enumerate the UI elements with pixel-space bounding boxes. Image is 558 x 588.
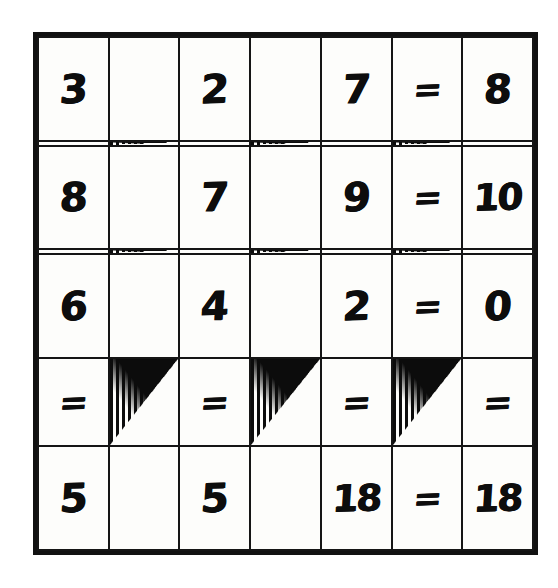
- cell-value: 7: [179, 176, 250, 218]
- cell-value: 3: [38, 68, 109, 110]
- cell-value: [180, 142, 249, 144]
- cell-value: 8: [462, 68, 533, 110]
- cell-r6c4[interactable]: [250, 358, 321, 447]
- cell-r7c1[interactable]: 5: [38, 446, 109, 550]
- cell-r6c6[interactable]: [392, 358, 463, 447]
- hatched-triangle-icon: [393, 359, 462, 446]
- cell-value: [110, 196, 179, 198]
- cell-r3c2[interactable]: [109, 146, 180, 250]
- cell-value: 2: [321, 285, 392, 327]
- cell-r7c2[interactable]: [109, 446, 180, 550]
- cell-r3c1[interactable]: 8: [38, 146, 109, 250]
- cell-value: =: [392, 480, 463, 516]
- cell-r5c2[interactable]: [109, 254, 180, 358]
- cell-value: 5: [38, 477, 109, 519]
- cell-r3c4[interactable]: [250, 146, 321, 250]
- table-row: 6 4 2 = 0: [38, 254, 533, 358]
- puzzle-grid: 3 2 7 = 8 8: [33, 32, 538, 555]
- cell-value: =: [392, 288, 463, 324]
- page-root: 3 2 7 = 8 8: [0, 0, 558, 588]
- cell-value: =: [462, 384, 533, 420]
- table-row: 3 2 7 = 8: [38, 37, 533, 141]
- cell-value: [463, 251, 532, 253]
- hatched-triangle-icon: [251, 142, 320, 145]
- cell-r7c7[interactable]: 18: [462, 446, 533, 550]
- cell-value: [322, 251, 391, 253]
- hatched-triangle-icon: [393, 250, 462, 253]
- cell-value: =: [38, 384, 109, 420]
- table-row: 5 5 18 = 18: [38, 446, 533, 550]
- cell-r1c4[interactable]: [250, 37, 321, 141]
- cell-value: =: [321, 384, 392, 420]
- cell-value: 18: [321, 479, 392, 518]
- cell-r3c3[interactable]: 7: [179, 146, 250, 250]
- cell-value: 9: [321, 176, 392, 218]
- cell-value: =: [392, 71, 463, 107]
- cell-value: [251, 196, 320, 198]
- table-row: = = = =: [38, 358, 533, 447]
- cell-value: 4: [179, 285, 250, 327]
- cell-value: 10: [462, 178, 533, 217]
- hatched-triangle-icon: [110, 142, 179, 145]
- cell-value: 7: [321, 68, 392, 110]
- hatched-triangle-icon: [110, 359, 179, 446]
- cell-r5c7[interactable]: 0: [462, 254, 533, 358]
- cell-value: [180, 251, 249, 253]
- cell-value: [251, 305, 320, 307]
- cell-r3c7[interactable]: 10: [462, 146, 533, 250]
- cell-value: [39, 142, 108, 144]
- cell-r5c1[interactable]: 6: [38, 254, 109, 358]
- cell-value: [322, 142, 391, 144]
- grid-body: 3 2 7 = 8 8: [38, 37, 533, 550]
- cell-value: [110, 497, 179, 499]
- cell-r1c1[interactable]: 3: [38, 37, 109, 141]
- cell-value: [463, 142, 532, 144]
- cell-r6c2[interactable]: [109, 358, 180, 447]
- cell-value: [39, 251, 108, 253]
- cell-r6c7[interactable]: =: [462, 358, 533, 447]
- cell-value: 2: [179, 68, 250, 110]
- cell-value: [110, 305, 179, 307]
- cell-value: 18: [462, 479, 533, 518]
- hatched-triangle-icon: [110, 250, 179, 253]
- cell-value: =: [392, 179, 463, 215]
- cell-value: 8: [38, 176, 109, 218]
- cell-r1c5[interactable]: 7: [321, 37, 392, 141]
- cell-r6c1[interactable]: =: [38, 358, 109, 447]
- cell-r1c6[interactable]: =: [392, 37, 463, 141]
- cell-r6c3[interactable]: =: [179, 358, 250, 447]
- cell-value: 5: [179, 477, 250, 519]
- cell-r3c6[interactable]: =: [392, 146, 463, 250]
- hatched-triangle-icon: [251, 250, 320, 253]
- cell-r5c5[interactable]: 2: [321, 254, 392, 358]
- hatched-triangle-icon: [251, 359, 320, 446]
- hatched-triangle-icon: [393, 142, 462, 145]
- cell-r1c7[interactable]: 8: [462, 37, 533, 141]
- cell-r5c3[interactable]: 4: [179, 254, 250, 358]
- cell-value: [251, 88, 320, 90]
- cell-r7c4[interactable]: [250, 446, 321, 550]
- cell-r7c3[interactable]: 5: [179, 446, 250, 550]
- cell-r3c5[interactable]: 9: [321, 146, 392, 250]
- cell-value: [110, 88, 179, 90]
- cell-r7c5[interactable]: 18: [321, 446, 392, 550]
- cell-r7c6[interactable]: =: [392, 446, 463, 550]
- grid-table: 3 2 7 = 8 8: [37, 36, 534, 551]
- cell-value: 0: [462, 285, 533, 327]
- cell-r5c4[interactable]: [250, 254, 321, 358]
- cell-value: 6: [38, 285, 109, 327]
- cell-value: =: [179, 384, 250, 420]
- cell-r6c5[interactable]: =: [321, 358, 392, 447]
- cell-r1c2[interactable]: [109, 37, 180, 141]
- cell-r1c3[interactable]: 2: [179, 37, 250, 141]
- cell-value: [251, 497, 320, 499]
- table-row: 8 7 9 = 10: [38, 146, 533, 250]
- cell-r5c6[interactable]: =: [392, 254, 463, 358]
